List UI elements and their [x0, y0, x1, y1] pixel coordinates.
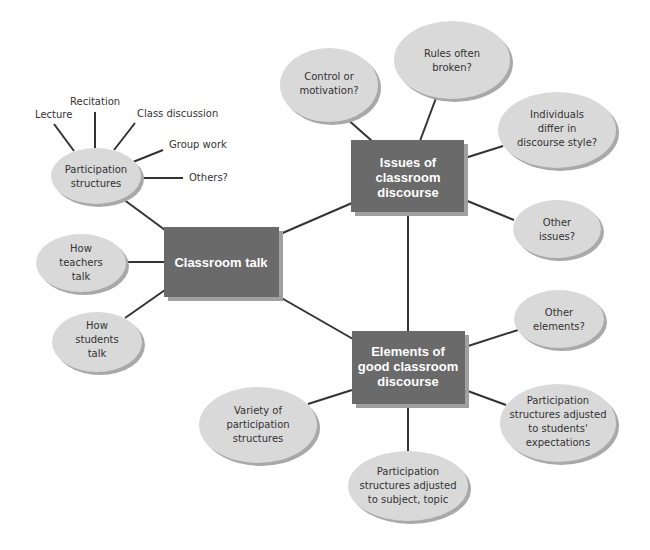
- line-class-discussion: [114, 123, 135, 150]
- oval-text-line: Participation: [377, 466, 439, 477]
- oval-text-line: motivation?: [299, 85, 358, 96]
- issues-label-line1: Issues of: [380, 155, 437, 170]
- oval-text-line: Rules often: [424, 48, 480, 59]
- leaf-class-discussion: Class discussion: [137, 108, 218, 119]
- elements-label-line3: discourse: [377, 374, 438, 389]
- oval-text-line: Individuals: [530, 109, 584, 120]
- leaf-group-work: Group work: [169, 139, 227, 150]
- elements-label-line2: good classroom: [358, 359, 458, 374]
- central-box-classroom-talk: Classroom talk: [164, 227, 283, 301]
- issues-label-line2: classroom: [375, 170, 440, 185]
- line-central-elements: [278, 296, 353, 339]
- oval-variety-of-participation-structures: Variety of participation structures: [199, 387, 320, 466]
- line-other-issues: [465, 200, 514, 220]
- oval-text-line: structures adjusted: [360, 480, 457, 491]
- oval-rules-often-broken: Rules often broken?: [394, 21, 513, 102]
- oval-text-line: to students': [528, 423, 587, 434]
- oval-text-line: How: [70, 243, 92, 254]
- oval-text-line: Other: [543, 217, 572, 228]
- elements-label-line1: Elements of: [371, 344, 445, 359]
- oval-text-line: expectations: [526, 437, 590, 448]
- issues-label-line3: discourse: [377, 185, 438, 200]
- oval-text-line: Other: [545, 307, 574, 318]
- oval-other-elements: Other elements?: [514, 290, 607, 351]
- oval-individuals-differ: Individuals differ in discourse style?: [498, 92, 619, 171]
- oval-text-line: to subject, topic: [368, 494, 448, 505]
- oval-text-line: talk: [88, 348, 107, 359]
- oval-text-line: structures: [71, 178, 122, 189]
- box-elements-of-good-classroom-discourse: Elements of good classroom discourse: [352, 331, 469, 408]
- line-individuals: [465, 146, 503, 158]
- oval-text-line: discourse style?: [517, 137, 597, 148]
- oval-participation-structures: Participation structures: [51, 148, 144, 207]
- line-students-expectations: [465, 390, 506, 405]
- line-students-central: [125, 290, 165, 318]
- line-lecture: [54, 124, 74, 151]
- concept-map: Classroom talk Issues of classroom disco…: [0, 0, 650, 550]
- oval-text-line: broken?: [432, 62, 472, 73]
- oval-text-line: differ in: [538, 123, 577, 134]
- oval-text-line: structures adjusted: [510, 409, 607, 420]
- line-participation-central: [123, 199, 165, 230]
- leaf-others: Others?: [189, 172, 228, 183]
- box-issues-of-classroom-discourse: Issues of classroom discourse: [351, 140, 468, 216]
- line-central-issues: [278, 203, 352, 235]
- oval-text-line: Participation: [527, 395, 589, 406]
- oval-how-students-talk: How students talk: [52, 312, 145, 375]
- oval-text-line: Control or: [304, 71, 354, 82]
- line-variety: [308, 390, 352, 404]
- line-other-elements: [465, 330, 518, 347]
- oval-text-line: How: [86, 320, 108, 331]
- central-label: Classroom talk: [174, 255, 268, 270]
- oval-text-line: teachers: [59, 257, 103, 268]
- oval-text-line: participation: [226, 419, 289, 430]
- oval-text-line: structures: [233, 433, 284, 444]
- oval-text-line: issues?: [539, 231, 575, 242]
- oval-text-line: students: [75, 334, 118, 345]
- leaf-recitation: Recitation: [70, 96, 120, 107]
- oval-text-line: talk: [72, 271, 91, 282]
- oval-text-line: elements?: [533, 321, 585, 332]
- line-group-work: [133, 150, 163, 162]
- oval-other-issues: Other issues?: [513, 200, 604, 261]
- oval-text-line: Participation: [65, 164, 127, 175]
- oval-adjusted-to-students-expectations: Participation structures adjusted to stu…: [500, 384, 619, 465]
- oval-control-or-motivation: Control or motivation?: [280, 48, 381, 125]
- oval-text-line: Variety of: [234, 405, 282, 416]
- leaf-lecture: Lecture: [35, 109, 72, 120]
- oval-how-teachers-talk: How teachers talk: [36, 234, 129, 295]
- line-rules: [420, 98, 436, 141]
- oval-adjusted-to-subject-topic: Participation structures adjusted to sub…: [348, 451, 471, 524]
